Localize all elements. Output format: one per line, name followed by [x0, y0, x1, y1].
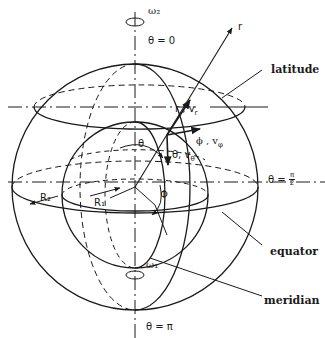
latitude-callout: latitude — [271, 64, 319, 75]
theta-half-pi-label: θ = π2 — [268, 172, 295, 187]
theta-zero-label: θ = 0 — [148, 36, 175, 46]
r2-label: R₂ — [40, 193, 51, 203]
meridian-callout: meridian — [264, 295, 320, 306]
r-vector-subscript: r — [195, 109, 198, 117]
r1-label: R₁ — [94, 198, 105, 208]
theta-angle-label: θ — [138, 139, 144, 149]
diagram-lines — [0, 0, 325, 338]
omega-bottom-label: ω₁ — [146, 260, 158, 270]
theta-half-pi-prefix: θ = — [268, 174, 286, 185]
theta-vector-label: θ, vθ — [172, 150, 195, 163]
equator-callout: equator — [270, 246, 318, 257]
half-pi-fraction: π2 — [289, 172, 295, 187]
phi-vector-text: ϕ , v — [196, 135, 218, 146]
phi-angle-label: Φ — [160, 190, 168, 200]
theta-vector-subscript: θ — [190, 155, 194, 163]
phi-vector-label: ϕ , vφ — [196, 136, 223, 149]
r-axis-label: r — [238, 22, 242, 32]
fraction-denominator: 2 — [289, 180, 295, 187]
theta-vector-text: θ, v — [172, 149, 190, 160]
r-vector-text: r , v — [175, 103, 195, 114]
omega-top-label: ω₂ — [148, 6, 160, 16]
r-vector-label: r , vr — [175, 104, 197, 117]
spherical-coordinates-diagram: ω₂ θ = 0 r latitude equator meridian θ =… — [0, 0, 325, 338]
phi-vector-subscript: φ — [218, 141, 223, 149]
theta-pi-label: θ = π — [146, 322, 173, 332]
